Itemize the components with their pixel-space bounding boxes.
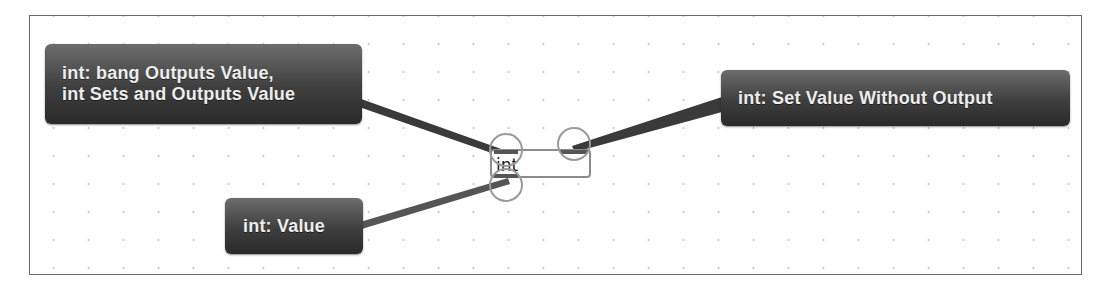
right-inlet-highlight-ring [557,127,591,161]
right-inlet-hint: int: Set Value Without Output [721,70,1070,126]
left-inlet-hint: int: bang Outputs Value, int Sets and Ou… [45,44,362,124]
connector-right-inlet [572,97,722,152]
connector-left-inlet [350,95,506,158]
hint-line: int Sets and Outputs Value [62,84,350,105]
outlet-hint: int: Value [225,198,363,254]
hint-line: int: bang Outputs Value, [62,63,350,84]
hint-line: int: Value [243,216,351,237]
left-inlet-highlight-ring [489,133,523,167]
hint-line: int: Set Value Without Output [738,88,1058,109]
connector-outlet [352,178,510,232]
outlet-highlight-ring [489,168,523,202]
